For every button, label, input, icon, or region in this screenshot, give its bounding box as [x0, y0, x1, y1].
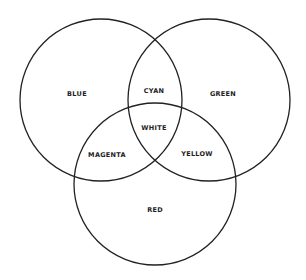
label-cyan: CYAN — [144, 87, 165, 95]
label-white: WHITE — [141, 124, 166, 132]
venn-diagram — [0, 0, 306, 280]
label-green: GREEN — [210, 90, 236, 98]
label-yellow: YELLOW — [181, 150, 213, 158]
label-blue: BLUE — [67, 90, 87, 98]
label-magenta: MAGENTA — [88, 151, 126, 159]
label-red: RED — [147, 206, 163, 214]
